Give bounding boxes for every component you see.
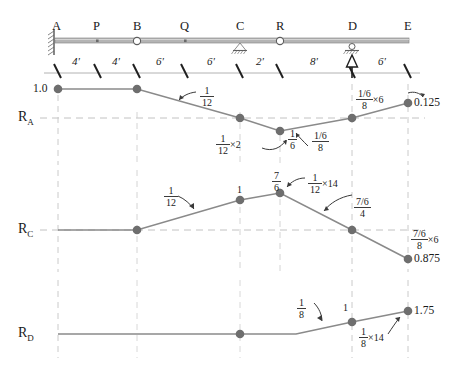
- axis-label-RC-sub: C: [27, 229, 33, 239]
- beam-label-B: B: [133, 20, 141, 33]
- axis-label-RA: RA: [18, 110, 34, 127]
- rc-node-Q: [236, 196, 245, 205]
- beam-label-A: A: [52, 20, 61, 33]
- rd-annot-rise-de: 1 8 ×14: [359, 326, 384, 349]
- rd-annot-rise-de-suffix: ×14: [368, 332, 384, 343]
- rc-annot-fall-cd: 7/6 4: [354, 196, 371, 219]
- ra-annot-drop-cr-suffix: ×2: [230, 139, 241, 150]
- rc-annot-fall-de: 7/6 8 ×6: [411, 228, 438, 251]
- ra-arrow-drop-cr: [262, 140, 286, 150]
- dimension-label-5: 2': [256, 56, 264, 67]
- beam-member: [55, 38, 409, 43]
- rc-annot-peak: 7 6: [272, 170, 281, 193]
- rc-node-D: [348, 226, 357, 235]
- beam-label-C: C: [236, 20, 244, 33]
- pin-support-icon-C: [232, 43, 248, 54]
- beam-point-marker-Q: [184, 40, 187, 43]
- axis-label-RA-sub: A: [27, 117, 34, 127]
- dimension-label-6: 8': [310, 56, 318, 67]
- rc-annot-peak-calc-suffix: ×14: [322, 178, 338, 189]
- rc-annot-q-ordinate: 1: [237, 185, 242, 195]
- rd-node-E: [404, 307, 413, 316]
- ra-node-A: [54, 85, 63, 94]
- rc-annot-peak-calc-frac: 1 12: [308, 172, 322, 195]
- ra-annot-slope-rd: 1/6 8: [312, 130, 329, 153]
- ra-value-E: 0.125: [414, 97, 440, 109]
- dimension-label-1: 4': [72, 56, 80, 67]
- ra-annot-drop-cr-frac: 1 12: [216, 133, 230, 156]
- hinge-icon-R: [276, 37, 283, 44]
- rc-annot-fall-de-frac: 7/6 8: [411, 228, 428, 251]
- rd-annot-d-ordinate: 1: [343, 303, 348, 313]
- rd-node-C: [236, 330, 245, 339]
- axis-label-RD-main: R: [18, 325, 27, 340]
- rc-annot-rise-bc: 1 12: [164, 185, 178, 208]
- influence-line-RC: [40, 170, 425, 272]
- ra-annot-rise-de-suffix: ×6: [373, 94, 384, 105]
- rd-annot-rise-de-frac: 1 8: [359, 326, 368, 349]
- rc-annot-peak-frac: 7 6: [272, 170, 281, 193]
- ra-annot-rise-de: 1/6 8 ×6: [356, 88, 383, 111]
- rc-annot-fall-cd-frac: 7/6 4: [354, 196, 371, 219]
- rc-node-B: [133, 226, 142, 235]
- dimension-label-2: 4': [112, 56, 120, 67]
- ra-annot-rise-de-frac: 1/6 8: [356, 88, 373, 111]
- influence-line-svg: [0, 0, 467, 367]
- ra-annot-slope-rd-frac: 1/6 8: [312, 130, 329, 153]
- beam-label-Q: Q: [180, 20, 189, 33]
- rc-node-E: [404, 255, 413, 264]
- axis-label-RD-sub: D: [27, 333, 34, 343]
- ra-annot-slope-bc: 1 12: [200, 85, 214, 108]
- rd-annotation-arrows: [314, 303, 400, 334]
- ra-value-A: 1.0: [33, 83, 47, 95]
- dimension-label-3: 6': [156, 56, 164, 67]
- ra-node-E: [404, 99, 413, 108]
- rc-annot-fall-de-suffix: ×6: [428, 234, 439, 245]
- rd-annot-rise-rd-frac: 1 8: [297, 297, 306, 320]
- axis-label-RC: RC: [18, 222, 33, 239]
- ra-annot-drop-cr: 1 12 ×2: [216, 133, 241, 156]
- beam-point-marker-P: [96, 40, 99, 43]
- ra-node-R: [276, 127, 285, 136]
- ra-annot-slope-bc-frac: 1 12: [200, 85, 214, 108]
- ra-annot-r-ordinate: 1 6: [288, 128, 297, 151]
- dimension-line-group: [44, 55, 420, 78]
- diagram-canvas: A P B Q C R D E 4' 4' 6' 6' 2' 8' 6' RA …: [0, 0, 467, 367]
- axis-label-RC-main: R: [18, 221, 27, 236]
- rc-annot-peak-calc: 1 12 ×14: [308, 172, 338, 195]
- ra-node-B: [133, 85, 142, 94]
- ra-annot-r-ordinate-frac: 1 6: [288, 128, 297, 151]
- rd-node-D: [348, 318, 357, 327]
- ra-node-C: [236, 114, 245, 123]
- rc-arrow-fall-cd: [324, 195, 352, 211]
- dimension-label-4: 6': [207, 56, 215, 67]
- dimension-label-7: 6': [378, 56, 386, 67]
- rd-annot-rise-rd: 1 8: [297, 297, 306, 320]
- beam-label-D: D: [348, 20, 357, 33]
- beam-label-P: P: [93, 20, 100, 33]
- rc-value-E: 0.875: [414, 253, 440, 265]
- axis-label-RD: RD: [18, 326, 34, 343]
- hinge-icon-B: [133, 37, 140, 44]
- rc-annot-rise-bc-frac: 1 12: [164, 185, 178, 208]
- rd-value-E: 1.75: [414, 305, 434, 317]
- load-arrow-up-D: [347, 55, 358, 78]
- roller-support-icon-D: [344, 44, 360, 55]
- beam-label-E: E: [404, 20, 412, 33]
- rd-head-1: [317, 315, 322, 321]
- ra-node-D: [348, 114, 357, 123]
- axis-label-RA-main: R: [18, 109, 27, 124]
- beam-label-R: R: [276, 20, 284, 33]
- ra-head-1: [179, 95, 184, 100]
- rd-head-2: [395, 317, 400, 322]
